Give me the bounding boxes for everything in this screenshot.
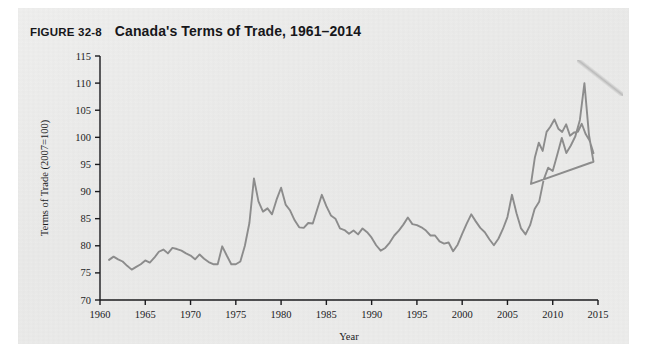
figure-panel: FIGURE 32-8Canada's Terms of Trade, 1961… <box>18 8 629 344</box>
x-tick-label: 1965 <box>135 309 156 320</box>
y-axis-title: Terms of Trade (2007=100) <box>39 119 51 236</box>
x-tick-label: 1995 <box>406 309 427 320</box>
x-tick-label: 1975 <box>225 309 246 320</box>
chart-plot-area: 707580859095100105110115 196019651970197… <box>18 8 629 344</box>
y-tick-label: 75 <box>81 267 92 278</box>
x-tick-label: 2015 <box>588 309 609 320</box>
y-tick-label: 80 <box>81 240 92 251</box>
y-tick-label: 70 <box>81 295 92 306</box>
x-tick-label: 1970 <box>180 309 201 320</box>
y-axis: 707580859095100105110115 <box>75 51 100 306</box>
x-tick-label: 2000 <box>452 309 473 320</box>
x-tick-label: 1990 <box>361 309 382 320</box>
series-line-terms-of-trade <box>109 83 593 270</box>
y-tick-label: 90 <box>81 186 92 197</box>
x-axis: 1960196519701975198019851990199520002005… <box>90 300 609 320</box>
x-axis-title: Year <box>339 331 359 342</box>
x-tick-label: 1985 <box>316 309 337 320</box>
terms-of-trade-line-chart: 707580859095100105110115 196019651970197… <box>18 8 629 344</box>
y-tick-label: 110 <box>76 78 91 89</box>
x-tick-label: 2010 <box>542 309 563 320</box>
x-tick-label: 1960 <box>90 309 111 320</box>
y-tick-label: 115 <box>76 51 91 62</box>
x-tick-label: 2005 <box>497 309 518 320</box>
y-tick-label: 85 <box>81 213 92 224</box>
y-tick-label: 95 <box>81 159 92 170</box>
y-tick-label: 100 <box>75 132 91 143</box>
y-tick-label: 105 <box>75 105 91 116</box>
x-tick-label: 1980 <box>271 309 292 320</box>
